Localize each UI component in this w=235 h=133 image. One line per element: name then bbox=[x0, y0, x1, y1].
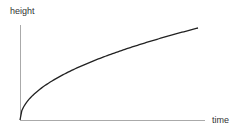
chart bbox=[0, 0, 235, 133]
curve bbox=[20, 28, 198, 120]
